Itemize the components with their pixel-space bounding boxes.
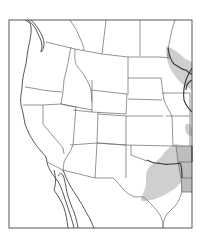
map-frame <box>9 20 192 228</box>
coastlines <box>21 20 94 228</box>
range-map <box>0 0 209 239</box>
pacific-coastline <box>21 20 74 228</box>
range-missouri-patch <box>185 124 192 136</box>
